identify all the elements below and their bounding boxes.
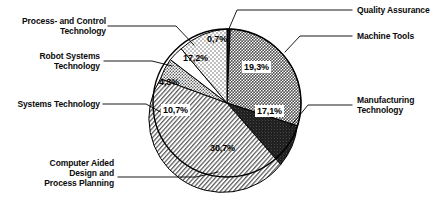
slice-label-systems-technology: Systems Technology <box>4 99 100 109</box>
slice-value-quality-assurance: 0,7% <box>207 34 227 44</box>
leader-line-machine-tools <box>285 36 352 52</box>
leader-line-process-and-control <box>108 26 194 45</box>
slice-value-manufacturing-technology: 17,1% <box>255 105 284 117</box>
slice-label-quality-assurance: Quality Assurance <box>357 5 445 15</box>
slice-value-systems-technology: 10,7% <box>161 104 190 116</box>
slice-label-robot-systems-technology: Robot Systems Technology <box>14 51 100 71</box>
pie-chart-figure: Process- and Control Technology Robot Sy… <box>0 0 446 202</box>
slice-value-machine-tools: 19,3% <box>242 61 271 73</box>
slice-label-machine-tools: Machine Tools <box>357 31 445 41</box>
leader-line-quality-assurance <box>228 10 352 31</box>
leader-line-robot-systems-technology <box>104 61 172 66</box>
slice-value-computer-aided-design: 30,7% <box>210 143 235 153</box>
slice-value-robot-systems-technology: 4,3% <box>159 77 179 87</box>
slice-label-computer-aided-design: Computer Aided Design and Process Planni… <box>20 158 114 188</box>
slice-label-process-and-control-technology: Process- and Control Technology <box>6 16 106 36</box>
slice-value-process-and-control-technology: 17,2% <box>183 53 208 63</box>
slice-label-manufacturing-technology: Manufacturing Technology <box>357 95 445 115</box>
